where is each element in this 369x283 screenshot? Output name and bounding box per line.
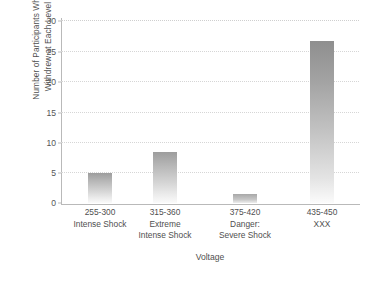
bar-435-450[interactable]: [310, 41, 334, 203]
y-tickmark-5: [58, 173, 61, 174]
x-tick-label-435-450: 435-450 XXX: [270, 207, 369, 230]
y-tickmark-25: [58, 51, 61, 52]
y-tick-label-15: 15: [46, 108, 56, 118]
y-tick-label-10: 10: [46, 138, 56, 148]
y-tick-label-25: 25: [46, 47, 56, 57]
x-tick-label-375-420-line3: Severe Shock: [193, 230, 297, 242]
x-axis-line: [61, 204, 360, 205]
y-axis-title-line1: Number of Participants Who: [31, 0, 41, 100]
x-tick-label-435-450-line2: XXX: [270, 219, 369, 231]
x-tick-label-435-450-line1: 435-450: [270, 207, 369, 219]
y-tickmark-0: [58, 203, 61, 204]
bar-255-300[interactable]: [88, 173, 112, 204]
bar-375-420[interactable]: [233, 194, 257, 203]
gridline-30: 30: [61, 20, 359, 21]
y-tick-label-30: 30: [46, 16, 56, 26]
y-tickmark-30: [58, 21, 61, 22]
x-axis-title: Voltage: [150, 252, 270, 262]
plot-area: 30 25 20 15 10 5 0: [61, 20, 359, 203]
y-tickmark-10: [58, 143, 61, 144]
y-tick-label-5: 5: [51, 168, 56, 178]
y-tick-label-20: 20: [46, 77, 56, 87]
y-tickmark-20: [58, 81, 61, 82]
bar-chart: Number of Participants Who Withdrew at E…: [0, 0, 369, 283]
bar-315-360[interactable]: [153, 152, 177, 203]
y-tickmark-15: [58, 112, 61, 113]
